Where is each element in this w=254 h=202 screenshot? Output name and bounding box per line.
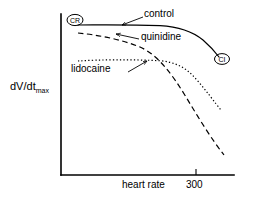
series-label-quinidine: quinidine [141, 32, 181, 42]
marker-cr: CR [67, 14, 83, 25]
annotation-arrow-lidocaine [128, 61, 147, 72]
series-label-control: control [144, 9, 174, 19]
marker-ci-label: CI [219, 56, 226, 63]
series-line-quinidine [78, 33, 224, 155]
x-axis-tick-label-300: 300 [186, 180, 203, 190]
y-axis-label-subscript: max [36, 87, 49, 94]
x-axis-label: heart rate [122, 180, 165, 190]
figure-container: CR CI dV/dtmax heart rate 300 control qu… [0, 0, 254, 202]
marker-cr-label: CR [70, 17, 80, 24]
plot-canvas: CR CI [0, 0, 254, 202]
annotation-arrow-control [122, 17, 143, 25]
annotation-arrow-quinidine [116, 34, 139, 39]
marker-ci: CI [215, 54, 230, 65]
series-label-lidocaine: lidocaine [71, 64, 110, 74]
y-axis-label: dV/dtmax [10, 81, 49, 94]
y-axis-label-main: dV/dt [10, 80, 36, 92]
